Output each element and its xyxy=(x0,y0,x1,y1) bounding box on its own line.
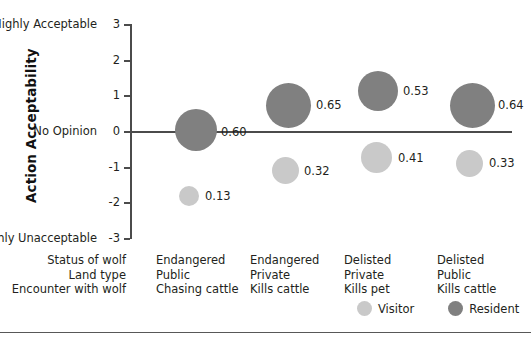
y-tick-label-3: 3 xyxy=(98,18,120,30)
y-tick-minus-1 xyxy=(124,167,130,169)
y-tick-3 xyxy=(124,24,130,26)
y-axis-title: Action Acceptability xyxy=(23,53,39,203)
y-anchor-highly-unacceptable: Highly Unacceptable xyxy=(0,232,97,244)
y-anchor-no-opinion: No Opinion xyxy=(33,125,97,137)
x-group-label-2: Endangered Private Kills cattle xyxy=(250,253,319,297)
y-tick-label-0: 0 xyxy=(98,125,120,137)
x-group-2-status: Endangered xyxy=(250,253,319,268)
bubble-label-visitor-group-3: 0.41 xyxy=(398,152,424,164)
x-group-label-3: Delisted Private Kills pet xyxy=(344,253,391,297)
y-tick-label-minus-1: -1 xyxy=(98,161,120,173)
x-group-4-status: Delisted xyxy=(437,253,496,268)
x-group-1-encounter: Chasing cattle xyxy=(156,282,238,297)
y-tick-label-minus-3: -3 xyxy=(98,232,120,244)
y-tick-label-1: 1 xyxy=(98,89,120,101)
bubble-label-resident-group-2: 0.65 xyxy=(316,99,342,111)
x-group-label-4: Delisted Public Kills cattle xyxy=(437,253,496,297)
bubble-label-resident-group-4: 0.64 xyxy=(498,99,524,111)
legend-item-visitor[interactable]: Visitor xyxy=(357,301,414,316)
bottom-divider-rule xyxy=(0,332,531,333)
y-tick-label-minus-2: -2 xyxy=(98,196,120,208)
row-header-status: Status of wolf xyxy=(0,253,126,268)
bubble-resident-group-3[interactable] xyxy=(358,71,398,111)
y-tick-1 xyxy=(124,95,130,97)
legend-item-resident[interactable]: Resident xyxy=(448,301,519,316)
legend-swatch-resident-icon xyxy=(448,301,463,316)
y-tick-minus-3 xyxy=(124,238,130,240)
x-group-3-encounter: Kills pet xyxy=(344,282,391,297)
bubble-visitor-group-3[interactable] xyxy=(361,142,392,173)
bubble-label-resident-group-1: 0.60 xyxy=(221,126,247,138)
bubble-label-visitor-group-2: 0.32 xyxy=(304,165,330,177)
legend-label-visitor: Visitor xyxy=(378,302,414,316)
y-tick-minus-2 xyxy=(124,202,130,204)
bubble-resident-group-1[interactable] xyxy=(175,109,217,151)
bubble-resident-group-4[interactable] xyxy=(450,83,495,128)
x-group-4-land: Public xyxy=(437,268,496,283)
x-group-label-1: Endangered Public Chasing cattle xyxy=(156,253,238,297)
bubble-visitor-group-2[interactable] xyxy=(272,157,299,184)
legend-label-resident: Resident xyxy=(469,302,519,316)
x-group-1-status: Endangered xyxy=(156,253,238,268)
bubble-visitor-group-1[interactable] xyxy=(179,186,199,206)
legend: Visitor Resident xyxy=(357,301,519,316)
row-header-encounter: Encounter with wolf xyxy=(0,282,126,297)
legend-swatch-visitor-icon xyxy=(357,301,372,316)
x-group-3-status: Delisted xyxy=(344,253,391,268)
bubble-resident-group-2[interactable] xyxy=(266,83,311,128)
x-group-3-land: Private xyxy=(344,268,391,283)
bubble-label-resident-group-3: 0.53 xyxy=(403,85,429,97)
bubble-visitor-group-4[interactable] xyxy=(456,150,483,177)
x-group-1-land: Public xyxy=(156,268,238,283)
row-header-land: Land type xyxy=(0,268,126,283)
bubble-chart-figure: 3 2 1 0 -1 -2 -3 Highly Acceptable No Op… xyxy=(0,0,531,346)
y-anchor-highly-acceptable: Highly Acceptable xyxy=(0,18,97,30)
x-group-2-encounter: Kills cattle xyxy=(250,282,319,297)
x-group-4-encounter: Kills cattle xyxy=(437,282,496,297)
x-group-2-land: Private xyxy=(250,268,319,283)
y-tick-label-2: 2 xyxy=(98,54,120,66)
bubble-label-visitor-group-1: 0.13 xyxy=(205,190,231,202)
x-axis-row-headers: Status of wolf Land type Encounter with … xyxy=(0,253,126,297)
y-tick-2 xyxy=(124,60,130,62)
bubble-label-visitor-group-4: 0.33 xyxy=(489,157,515,169)
